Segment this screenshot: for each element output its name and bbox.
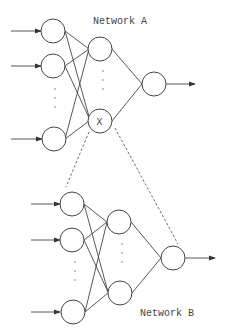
edge <box>65 49 89 139</box>
ellipsis-dots <box>54 70 104 108</box>
edge <box>65 121 89 139</box>
edge <box>131 222 161 258</box>
network-a: Network A X <box>11 16 195 151</box>
input-node <box>41 54 65 78</box>
edge <box>112 49 142 84</box>
hidden-node <box>108 281 132 305</box>
network-b: Network B <box>31 192 215 324</box>
edge <box>85 293 108 312</box>
hidden-node-x-label: X <box>97 117 103 128</box>
dashed-projection-left <box>66 132 89 187</box>
input-node <box>42 127 66 151</box>
hidden-node <box>107 210 131 234</box>
input-node <box>41 19 65 43</box>
hidden-node <box>88 37 112 61</box>
input-node <box>61 300 85 324</box>
edge <box>84 204 107 222</box>
edge <box>85 222 107 312</box>
edge <box>112 84 142 121</box>
edge <box>132 258 161 293</box>
network-a-label: Network A <box>93 16 147 27</box>
neural-network-diagram: Network A X <box>0 0 225 331</box>
ellipsis-dots <box>74 243 123 281</box>
output-node <box>142 72 166 96</box>
network-b-label: Network B <box>140 308 194 319</box>
output-node <box>161 246 185 270</box>
edge <box>65 31 90 120</box>
input-node <box>60 192 84 216</box>
input-node <box>60 228 84 252</box>
edge <box>65 31 89 49</box>
